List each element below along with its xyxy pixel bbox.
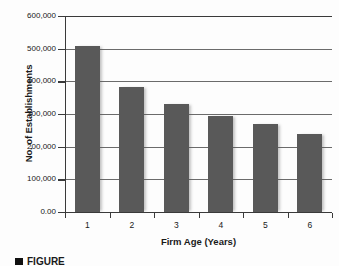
gridline	[65, 16, 332, 17]
gridline	[65, 147, 332, 148]
y-axis-tick	[58, 212, 65, 213]
x-axis-tick-label: 4	[208, 220, 234, 230]
x-axis-tick	[154, 213, 155, 218]
x-axis-tick	[110, 213, 111, 218]
bar	[208, 116, 233, 212]
x-axis-tick-label: 3	[163, 220, 189, 230]
x-axis-tick	[243, 213, 244, 218]
plot-area	[65, 16, 332, 212]
y-axis-tick	[58, 114, 65, 115]
x-axis-tick-label: 2	[119, 220, 145, 230]
x-axis-tick	[288, 213, 289, 218]
x-axis-title: Firm Age (Years)	[65, 236, 332, 247]
x-axis-tick-label: 1	[74, 220, 100, 230]
bar	[253, 124, 278, 212]
y-axis-tick	[58, 147, 65, 148]
gridline	[65, 49, 332, 50]
figure-container: No. of Establishments Firm Age (Years) F…	[0, 0, 339, 266]
caption-label: FIGURE	[27, 256, 65, 266]
y-axis-tick	[58, 81, 65, 82]
bar	[119, 87, 144, 212]
gridline	[65, 81, 332, 82]
gridline	[65, 114, 332, 115]
y-axis-tick	[58, 49, 65, 50]
bar	[75, 46, 100, 212]
y-axis-tick	[58, 16, 65, 17]
gridline	[65, 179, 332, 180]
x-axis-tick-label: 6	[297, 220, 323, 230]
x-axis-tick	[332, 213, 333, 218]
x-axis-tick	[199, 213, 200, 218]
y-axis-line	[65, 16, 66, 213]
x-axis-tick	[65, 213, 66, 218]
y-axis-tick	[58, 179, 65, 180]
bar	[297, 134, 322, 212]
bar	[164, 104, 189, 212]
caption-square-icon	[15, 258, 23, 265]
x-axis-tick-label: 5	[252, 220, 278, 230]
figure-caption: FIGURE	[15, 256, 65, 266]
